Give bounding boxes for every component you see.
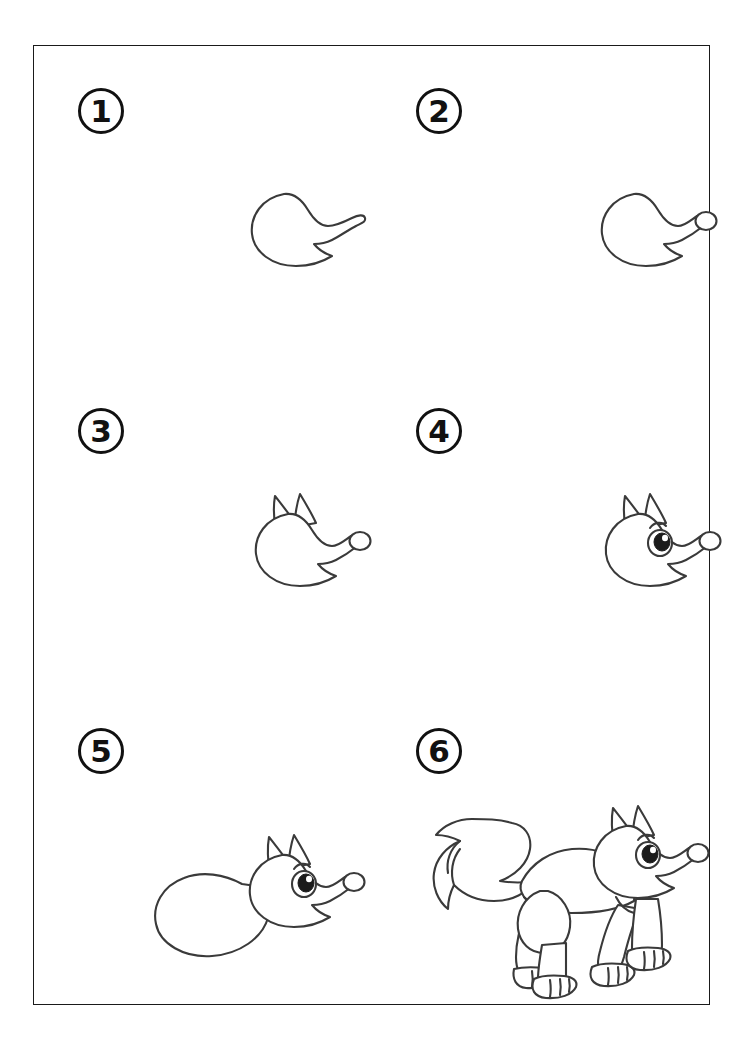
step-panel-3: 3 xyxy=(34,366,372,686)
fox-head-outline-1 xyxy=(252,194,365,266)
step-panel-5: 5 xyxy=(34,686,372,1006)
fox-pupil-6 xyxy=(642,845,658,863)
step-number-badge-5: 5 xyxy=(78,728,124,774)
step-number-badge-3: 3 xyxy=(78,408,124,454)
fox-nose-3 xyxy=(350,532,371,550)
fox-head-outline-3 xyxy=(256,514,356,586)
step-drawing-4 xyxy=(592,481,732,591)
fox-nose-6 xyxy=(688,844,709,862)
fox-pupil-4 xyxy=(654,533,670,551)
fox-tail-6 xyxy=(434,819,534,909)
step-drawing-5 xyxy=(144,826,374,966)
fox-eye-highlight-6 xyxy=(650,847,656,853)
step-drawing-6 xyxy=(420,801,700,1011)
step-drawing-3 xyxy=(242,481,382,591)
fox-pupil-5 xyxy=(298,874,314,892)
step-number-badge-6: 6 xyxy=(416,728,462,774)
drawing-frame-border: 1 2 3 xyxy=(33,45,710,1005)
step-number-badge-2: 2 xyxy=(416,88,462,134)
fox-nose-2 xyxy=(696,212,717,230)
fox-nose-4 xyxy=(700,532,721,550)
step-number-badge-4: 4 xyxy=(416,408,462,454)
fox-nose-5 xyxy=(344,873,365,891)
step-drawing-1 xyxy=(244,186,374,276)
worksheet-page: 1 2 3 xyxy=(0,0,742,1055)
step-drawing-2 xyxy=(594,186,724,276)
fox-eye-highlight-5 xyxy=(306,876,312,882)
fox-eye-highlight-4 xyxy=(662,535,668,541)
step-number-badge-1: 1 xyxy=(78,88,124,134)
fox-head-outline-2 xyxy=(602,194,702,266)
step-panel-6: 6 xyxy=(372,686,710,1006)
step-panel-2: 2 xyxy=(372,46,710,366)
step-panel-4: 4 xyxy=(372,366,710,686)
step-panel-1: 1 xyxy=(34,46,372,366)
